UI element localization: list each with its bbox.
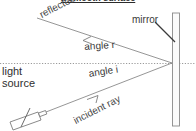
incident-ray-arrowhead [87,96,98,104]
light-source-icon [10,108,47,130]
reflection-diagram: a smooth surface reflected ray mirror an… [0,0,196,131]
light-source-label: light source [2,66,35,89]
light-source-body [10,112,41,130]
angle-r-label: angle r [84,40,115,53]
mirror-bar [173,13,180,126]
mirror-label: mirror [132,15,158,26]
light-source-nozzle [39,111,47,117]
light-source-label-line1: light [2,66,35,78]
light-source-label-line2: source [2,78,35,90]
